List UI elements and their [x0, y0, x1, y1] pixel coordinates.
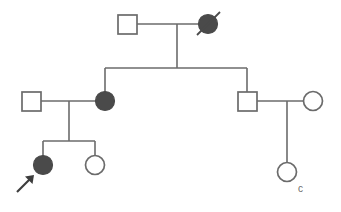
pedigree-chart: c: [0, 0, 341, 212]
proband-arrow-icon: [17, 175, 34, 192]
member-I-1-square[interactable]: [118, 15, 137, 34]
member-III-2-circle[interactable]: [86, 156, 105, 175]
pedigree-drawing: c: [0, 0, 341, 212]
member-II-2-circle[interactable]: [96, 92, 115, 111]
member-III-3-circle[interactable]: [278, 163, 297, 182]
member-II-4-circle[interactable]: [304, 92, 323, 111]
member-III-3-label: c: [298, 183, 303, 194]
member-III-1-circle[interactable]: [34, 156, 53, 175]
member-II-3-square[interactable]: [238, 92, 257, 111]
member-II-1-square[interactable]: [22, 92, 41, 111]
